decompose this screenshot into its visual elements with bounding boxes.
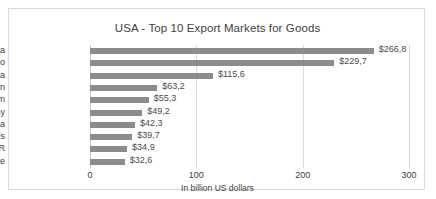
category-label: United Kingdom <box>0 94 5 104</box>
bar <box>90 159 125 165</box>
bar-row: $63,2 <box>90 82 409 94</box>
plot-area: $266,8$229,7$115,6$63,2$55,3$49,2$42,3$3… <box>90 45 409 168</box>
gridline-300 <box>409 45 410 168</box>
category-label: Rep. of Korea <box>0 119 5 129</box>
bar <box>90 48 374 54</box>
category-label: Netherlands <box>0 131 5 141</box>
bar <box>90 60 334 66</box>
bar-value-label: $42,3 <box>140 118 163 128</box>
bar-row: $229,7 <box>90 57 409 69</box>
bar-value-label: $39,7 <box>137 130 160 140</box>
x-axis-ticks: 0100200300 <box>90 170 409 184</box>
bar <box>90 122 135 128</box>
category-label: Hong Kong SAR <box>0 143 5 153</box>
category-label: China <box>0 70 5 80</box>
bar-value-label: $34,9 <box>132 142 155 152</box>
bar-value-label: $115,6 <box>218 69 245 79</box>
bar-value-label: $32,6 <box>130 155 153 165</box>
bar-row: $115,6 <box>90 70 409 82</box>
category-label: Germany <box>0 107 5 117</box>
category-label: Japan <box>0 82 5 92</box>
bar <box>90 85 157 91</box>
bar <box>90 146 127 152</box>
bar-value-label: $63,2 <box>162 81 185 91</box>
bar <box>90 134 132 140</box>
x-axis-title: In billion US dollars <box>9 183 426 193</box>
bar <box>90 97 149 103</box>
category-label: Canada <box>0 45 5 55</box>
bar-row: $32,6 <box>90 156 409 168</box>
x-tick-label: 0 <box>87 170 92 180</box>
bar-row: $49,2 <box>90 107 409 119</box>
x-tick-label: 300 <box>401 170 416 180</box>
bar <box>90 73 213 79</box>
chart-title: USA - Top 10 Export Markets for Goods <box>9 22 426 34</box>
category-axis: CanadaMexicoChinaJapanUnited KingdomGerm… <box>0 45 5 168</box>
bar-value-label: $55,3 <box>154 93 177 103</box>
bar-value-label: $266,8 <box>379 44 407 54</box>
chart-frame: USA - Top 10 Export Markets for Goods Ca… <box>8 8 425 190</box>
x-tick-label: 100 <box>189 170 204 180</box>
category-label: France <box>0 156 5 166</box>
bar-value-label: $229,7 <box>339 56 367 66</box>
bar <box>90 110 142 116</box>
category-label: Mexico <box>0 57 5 67</box>
x-tick-label: 200 <box>295 170 310 180</box>
bar-value-label: $49,2 <box>147 106 170 116</box>
bar-row: $55,3 <box>90 94 409 106</box>
